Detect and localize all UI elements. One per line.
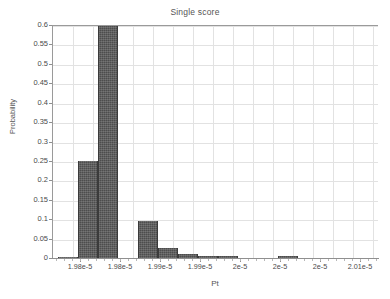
x-tick-minor-mark	[104, 259, 105, 261]
y-tick-mark	[49, 83, 52, 84]
x-tick-minor-mark	[192, 259, 193, 261]
plot-area	[52, 25, 378, 258]
x-tick-minor-mark	[288, 259, 289, 261]
x-tick-label: 2.01e-5	[330, 262, 390, 271]
x-tick-minor-mark	[88, 259, 89, 261]
gridline-vertical	[193, 26, 194, 258]
y-tick-mark	[49, 44, 52, 45]
gridline-vertical	[213, 26, 214, 258]
x-tick-minor-mark	[264, 259, 265, 261]
bar	[98, 25, 118, 258]
x-tick-minor-mark	[184, 259, 185, 261]
y-tick-label: 0.45	[8, 78, 48, 87]
y-tick-mark	[49, 180, 52, 181]
y-tick-label: 0.2	[8, 175, 48, 184]
x-tick-minor-mark	[328, 259, 329, 261]
x-tick-minor-mark	[248, 259, 249, 261]
x-tick-minor-mark	[72, 259, 73, 261]
bar	[78, 161, 98, 258]
y-tick-label: 0.6	[8, 20, 48, 29]
x-tick-minor-mark	[56, 259, 57, 261]
x-tick-minor-mark	[280, 259, 281, 261]
gridline-vertical	[73, 26, 74, 258]
x-tick-minor-mark	[216, 259, 217, 261]
y-tick-mark	[49, 64, 52, 65]
x-tick-minor-mark	[128, 259, 129, 261]
y-tick-mark	[49, 25, 52, 26]
x-tick-minor-mark	[344, 259, 345, 261]
x-tick-minor-mark	[272, 259, 273, 261]
x-tick-minor-mark	[120, 259, 121, 261]
y-tick-label: 0.5	[8, 59, 48, 68]
gridline-vertical	[233, 26, 234, 258]
bar	[158, 248, 178, 258]
x-tick-minor-mark	[112, 259, 113, 261]
y-tick-label: 0.3	[8, 137, 48, 146]
gridline-vertical	[273, 26, 274, 258]
gridline-vertical	[353, 26, 354, 258]
y-tick-label: 0.55	[8, 39, 48, 48]
x-tick-minor-mark	[336, 259, 337, 261]
x-tick-minor-mark	[160, 259, 161, 261]
y-tick-label: 0.1	[8, 214, 48, 223]
y-tick-mark	[49, 122, 52, 123]
y-tick-mark	[49, 103, 52, 104]
y-tick-mark	[49, 258, 52, 259]
y-tick-label: 0.35	[8, 117, 48, 126]
y-tick-mark	[49, 219, 52, 220]
y-tick-mark	[49, 161, 52, 162]
x-tick-minor-mark	[312, 259, 313, 261]
x-tick-minor-mark	[256, 259, 257, 261]
x-tick-minor-mark	[200, 259, 201, 261]
x-tick-minor-mark	[320, 259, 321, 261]
x-tick-minor-mark	[352, 259, 353, 261]
x-tick-minor-mark	[296, 259, 297, 261]
x-tick-minor-mark	[360, 259, 361, 261]
x-tick-minor-mark	[376, 259, 377, 261]
x-tick-minor-mark	[240, 259, 241, 261]
y-tick-mark	[49, 142, 52, 143]
gridline-vertical	[173, 26, 174, 258]
y-tick-label: 0.25	[8, 156, 48, 165]
y-tick-label: 0.4	[8, 98, 48, 107]
chart-figure: Single score Probability 00.050.10.150.2…	[0, 0, 390, 299]
y-tick-label: 0.05	[8, 234, 48, 243]
x-tick-minor-mark	[176, 259, 177, 261]
gridline-vertical	[253, 26, 254, 258]
x-tick-minor-mark	[208, 259, 209, 261]
x-tick-minor-mark	[136, 259, 137, 261]
y-tick-label: 0	[8, 253, 48, 262]
x-tick-minor-mark	[224, 259, 225, 261]
gridline-vertical	[373, 26, 374, 258]
x-tick-minor-mark	[232, 259, 233, 261]
y-tick-mark	[49, 239, 52, 240]
x-tick-minor-mark	[80, 259, 81, 261]
gridline-vertical	[133, 26, 134, 258]
x-axis-label: Pt	[52, 279, 378, 288]
x-tick-minor-mark	[144, 259, 145, 261]
chart-title: Single score	[0, 7, 390, 17]
x-tick-minor-mark	[368, 259, 369, 261]
gridline-vertical	[333, 26, 334, 258]
y-tick-label: 0.15	[8, 195, 48, 204]
x-tick-minor-mark	[304, 259, 305, 261]
y-tick-mark	[49, 200, 52, 201]
x-tick-minor-mark	[152, 259, 153, 261]
x-tick-minor-mark	[96, 259, 97, 261]
gridline-vertical	[313, 26, 314, 258]
bar	[138, 221, 158, 258]
x-tick-minor-mark	[64, 259, 65, 261]
gridline-vertical	[293, 26, 294, 258]
x-tick-minor-mark	[168, 259, 169, 261]
